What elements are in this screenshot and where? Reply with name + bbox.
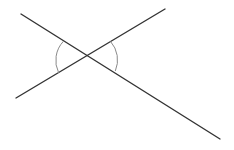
right-angle-arc <box>111 41 118 71</box>
line-b <box>16 9 165 98</box>
vertical-angles-diagram <box>0 0 234 150</box>
left-angle-arc <box>56 41 64 73</box>
